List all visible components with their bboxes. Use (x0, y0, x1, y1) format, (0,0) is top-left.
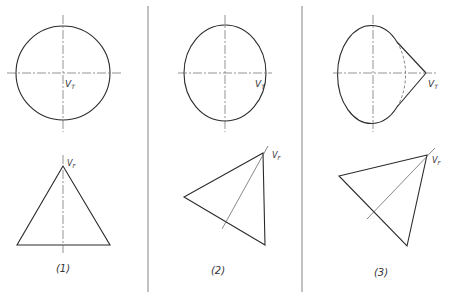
panel-caption-1: (1) (56, 263, 70, 274)
vertex-label-front-1: VF (67, 159, 76, 169)
panel-3: VT VF (3) (333, 15, 441, 278)
panel-2-front-view: VF (184, 146, 281, 245)
panel-2-top-view: VT (178, 15, 272, 132)
vertex-label-top-1: VT (65, 79, 76, 90)
panel-3-front-view: VF (339, 148, 441, 246)
vertex-label-top-2: VT (255, 79, 266, 90)
panel-2: VT VF (2) (178, 15, 281, 276)
panel-1-front-view: VF (17, 155, 110, 253)
vertex-label-top-3: VT (428, 79, 439, 90)
projection-diagram: VT VF (1) VT VF (2) (0, 0, 450, 296)
vertex-label-front-2: VF (272, 151, 281, 161)
panel-3-top-view: VT (333, 15, 439, 132)
panel-1-top-view: VT (7, 15, 121, 132)
vertex-label-front-3: VF (432, 156, 441, 166)
panel-caption-2: (2) (211, 265, 225, 276)
panel-caption-3: (3) (374, 267, 388, 278)
panel-1: VT VF (1) (7, 15, 121, 274)
